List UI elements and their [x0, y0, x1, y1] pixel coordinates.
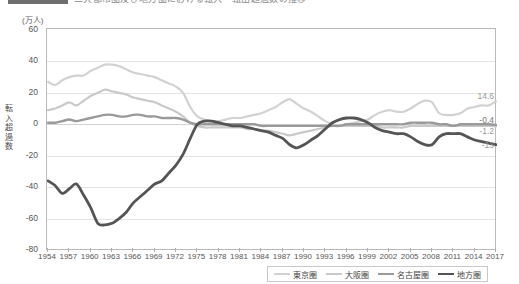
legend-item-nagoya[interactable]: 名古屋圏 [378, 269, 429, 280]
y-tick-label: 40 [0, 55, 38, 65]
legend-swatch-icon [378, 273, 394, 275]
x-tick-label: 1957 [59, 252, 77, 261]
y-tick-label: -20 [0, 150, 38, 160]
x-tick-label: 1969 [145, 252, 163, 261]
x-tick-label: 1984 [251, 252, 269, 261]
x-tick-label: 1996 [337, 252, 355, 261]
regional-end-label: -13 [470, 140, 494, 150]
x-tick-label: 1972 [166, 252, 184, 261]
x-tick-label: 2017 [486, 252, 504, 261]
x-tick-label: 2014 [465, 252, 483, 261]
x-tick-label: 2005 [401, 252, 419, 261]
x-tick-label: 1993 [315, 252, 333, 261]
y-tick-label: -60 [0, 213, 38, 223]
x-tick-label: 2011 [444, 252, 461, 261]
chart-lines [47, 29, 497, 251]
y-axis-ticks: 6040200-20-40-60-80 [0, 28, 44, 250]
y-tick-label: 60 [0, 24, 38, 34]
x-tick-label: 1990 [294, 252, 312, 261]
y-tick-label: -40 [0, 181, 38, 191]
series-line-regional [48, 118, 496, 225]
x-tick-label: 1975 [187, 252, 205, 261]
series-line-osaka [48, 90, 496, 136]
legend-swatch-icon [274, 273, 290, 275]
x-tick-label: 1966 [123, 252, 141, 261]
legend-label: 東京圏 [293, 269, 317, 280]
x-tick-label: 1954 [38, 252, 56, 261]
x-tick-label: 2002 [379, 252, 397, 261]
nagoya-end-label: -0.4 [470, 115, 494, 125]
chart-title-strip: 三大都市圏及び地方圏における転入・転出超過数の推移 [0, 0, 519, 6]
legend-swatch-icon [326, 273, 342, 275]
x-tick-label: 1978 [209, 252, 227, 261]
legend-item-osaka[interactable]: 大阪圏 [326, 269, 369, 280]
y-tick-label: 0 [0, 118, 38, 128]
plot-area [46, 28, 496, 250]
chart-legend: 東京圏大阪圏名古屋圏地方圏 [267, 266, 488, 282]
x-tick-label: 1960 [81, 252, 99, 261]
legend-swatch-icon [438, 273, 454, 276]
legend-label: 大阪圏 [345, 269, 369, 280]
y-tick-label: 20 [0, 87, 38, 97]
x-axis-ticks: 1954195719601963196619691972197519781981… [46, 252, 496, 266]
x-tick-label: 1999 [358, 252, 376, 261]
page-title: 三大都市圏及び地方圏における転入・転出超過数の推移 [74, 0, 307, 5]
legend-item-regional[interactable]: 地方圏 [438, 269, 481, 280]
legend-label: 名古屋圏 [397, 269, 429, 280]
tokyo-end-label: 14.6 [470, 91, 494, 101]
series-line-nagoya [48, 115, 496, 126]
x-tick-label: 1987 [273, 252, 291, 261]
osaka-end-label: -1.2 [470, 126, 494, 136]
y-tick-label: -80 [0, 244, 38, 254]
title-badge [8, 0, 68, 4]
x-tick-label: 1963 [102, 252, 120, 261]
x-tick-label: 1981 [230, 252, 248, 261]
x-tick-label: 2008 [422, 252, 440, 261]
legend-label: 地方圏 [457, 269, 481, 280]
chart-figure: 三大都市圏及び地方圏における転入・転出超過数の推移 (万人) 転入超過数 604… [0, 0, 519, 284]
legend-item-tokyo[interactable]: 東京圏 [274, 269, 317, 280]
